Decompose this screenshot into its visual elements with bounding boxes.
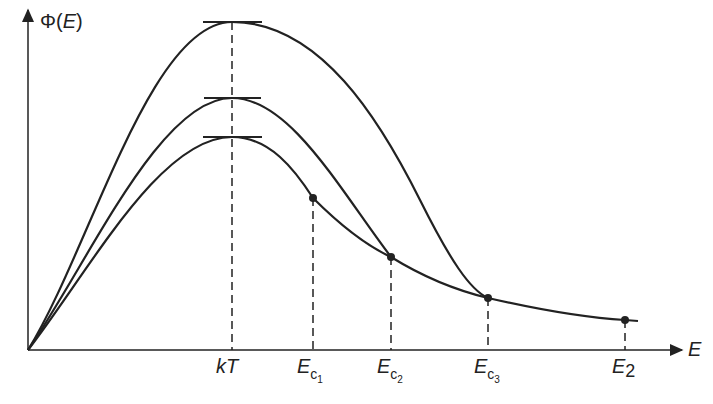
plot-canvas [0, 0, 713, 404]
ec1-label: Ec1 [297, 355, 323, 378]
e2-label: E2 [612, 355, 635, 378]
kt-label: kT [216, 355, 238, 378]
point-ec3 [484, 294, 492, 302]
y-axis-label: Φ(E) [40, 10, 83, 33]
curve-low [28, 137, 638, 350]
curve-mid [28, 98, 391, 350]
point-e2 [621, 316, 629, 324]
point-ec2 [387, 253, 395, 261]
ec3-label: Ec3 [474, 355, 500, 378]
x-axis-label: E [688, 338, 701, 361]
curve-high [28, 22, 488, 350]
point-ec1 [309, 194, 317, 202]
ec2-label: Ec2 [377, 355, 403, 378]
